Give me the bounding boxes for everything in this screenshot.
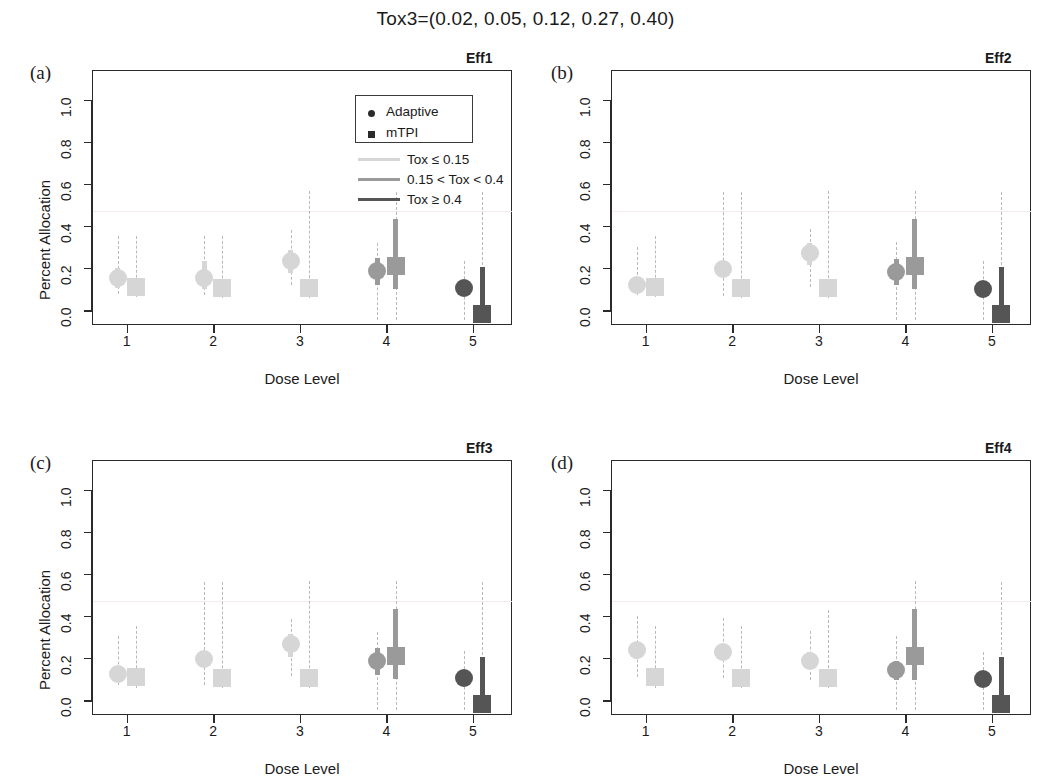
mtpi-median-marker: [387, 647, 405, 665]
mtpi-median-marker: [387, 257, 405, 275]
y-tick-label: 0.0: [58, 698, 74, 717]
x-tick-mark: [646, 325, 647, 333]
circle-marker: [368, 110, 375, 117]
mtpi-median-marker: [300, 669, 318, 687]
y-tick-label: 0.6: [577, 181, 593, 200]
y-axis-line: [91, 100, 92, 311]
adaptive-median-marker: [282, 635, 300, 653]
x-tick-label: 5: [459, 333, 487, 349]
x-tick-mark: [732, 715, 733, 723]
y-axis-label: Percent Allocation: [36, 180, 53, 300]
x-tick-mark: [386, 715, 387, 723]
y-tick-label: 0.6: [58, 571, 74, 590]
panel-eff-label: Eff4: [985, 440, 1011, 456]
x-tick-mark: [819, 325, 820, 333]
x-tick-mark: [646, 715, 647, 723]
y-tick-label: 0.2: [58, 656, 74, 675]
y-tick-label: 0.8: [58, 139, 74, 158]
y-tick-label: 1.0: [577, 97, 593, 116]
x-tick-mark: [127, 715, 128, 723]
y-tick-label: 0.0: [577, 308, 593, 327]
mtpi-median-marker: [646, 668, 664, 686]
panel-eff-label: Eff1: [466, 50, 492, 66]
mtpi-inner-interval: [912, 219, 917, 289]
y-tick-label: 0.2: [577, 656, 593, 675]
x-tick-mark: [213, 715, 214, 723]
x-axis-label: Dose Level: [92, 760, 512, 777]
adaptive-median-marker: [974, 670, 992, 688]
x-tick-mark: [819, 715, 820, 723]
x-tick-mark: [473, 715, 474, 723]
x-tick-label: 5: [459, 723, 487, 739]
y-tick-mark: [603, 310, 611, 311]
x-tick-label: 5: [978, 723, 1006, 739]
mtpi-median-marker: [819, 669, 837, 687]
mtpi-median-marker: [127, 668, 145, 686]
panel-eff-label: Eff3: [466, 440, 492, 456]
adaptive-median-marker: [455, 279, 473, 297]
scan-hairline: [611, 211, 1031, 212]
x-tick-label: 4: [372, 723, 400, 739]
y-tick-label: 0.4: [577, 613, 593, 632]
x-tick-label: 2: [199, 723, 227, 739]
y-tick-label: 0.2: [58, 266, 74, 285]
y-axis-line: [610, 490, 611, 701]
x-tick-label: 1: [632, 723, 660, 739]
x-tick-label: 4: [372, 333, 400, 349]
x-axis-label: Dose Level: [611, 370, 1031, 387]
adaptive-median-marker: [628, 276, 646, 294]
y-tick-label: 0.2: [577, 266, 593, 285]
x-tick-mark: [992, 715, 993, 723]
mtpi-median-marker: [819, 279, 837, 297]
y-tick-label: 0.4: [58, 613, 74, 632]
mtpi-median-marker: [473, 695, 491, 713]
y-tick-label: 0.0: [577, 698, 593, 717]
y-tick-label: 0.0: [58, 308, 74, 327]
adaptive-outer-interval: [723, 192, 724, 296]
mtpi-inner-interval: [393, 219, 398, 289]
adaptive-median-marker: [368, 652, 386, 670]
y-tick-label: 1.0: [577, 487, 593, 506]
mtpi-median-marker: [906, 257, 924, 275]
adaptive-median-marker: [801, 244, 819, 262]
y-tick-label: 1.0: [58, 487, 74, 506]
y-axis-label: Percent Allocation: [36, 570, 53, 690]
scan-hairline: [611, 601, 1031, 602]
x-tick-label: 1: [632, 333, 660, 349]
x-tick-mark: [732, 325, 733, 333]
y-tick-mark: [84, 700, 92, 701]
x-tick-label: 3: [805, 723, 833, 739]
mtpi-median-marker: [473, 305, 491, 323]
x-tick-mark: [300, 715, 301, 723]
mtpi-median-marker: [732, 669, 750, 687]
mtpi-median-marker: [127, 278, 145, 296]
mtpi-median-marker: [646, 278, 664, 296]
panel-tag: (d): [551, 452, 573, 474]
figure-root: Tox3=(0.02, 0.05, 0.12, 0.27, 0.40) (a)E…: [0, 0, 1051, 780]
mtpi-median-marker: [213, 669, 231, 687]
x-axis-label: Dose Level: [611, 760, 1031, 777]
figure-title: Tox3=(0.02, 0.05, 0.12, 0.27, 0.40): [0, 8, 1051, 30]
adaptive-median-marker: [801, 652, 819, 670]
x-tick-label: 1: [113, 723, 141, 739]
x-tick-label: 4: [891, 723, 919, 739]
legend-method-label: mTPI: [386, 125, 418, 140]
x-tick-label: 4: [891, 333, 919, 349]
mtpi-median-marker: [732, 279, 750, 297]
legend-tox-swatch: [358, 198, 400, 201]
x-tick-mark: [386, 325, 387, 333]
adaptive-median-marker: [628, 641, 646, 659]
x-tick-label: 3: [286, 723, 314, 739]
x-tick-mark: [473, 325, 474, 333]
mtpi-inner-interval: [393, 609, 398, 679]
y-tick-label: 0.6: [577, 571, 593, 590]
adaptive-median-marker: [974, 280, 992, 298]
adaptive-median-marker: [455, 669, 473, 687]
legend-method-label: Adaptive: [386, 104, 439, 119]
x-tick-mark: [905, 715, 906, 723]
x-axis-label: Dose Level: [92, 370, 512, 387]
y-tick-mark: [603, 700, 611, 701]
mtpi-median-marker: [992, 305, 1010, 323]
adaptive-median-marker: [282, 252, 300, 270]
mtpi-median-marker: [213, 279, 231, 297]
